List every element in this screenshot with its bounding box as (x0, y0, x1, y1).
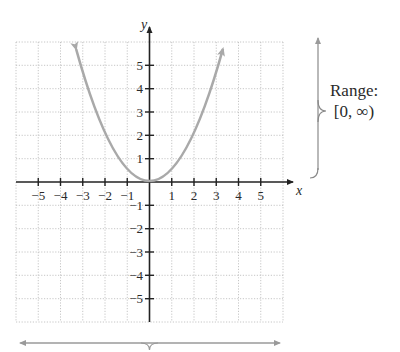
x-tick-label: −3 (76, 188, 90, 203)
y-tick-label: −1 (129, 198, 143, 213)
y-tick-label: 1 (137, 151, 144, 166)
x-tick-label: −4 (54, 188, 68, 203)
axes (16, 27, 293, 322)
x-tick-label: 3 (213, 188, 220, 203)
range-value: [0, ∞) (330, 101, 378, 122)
y-tick-label: −2 (129, 221, 143, 236)
x-tick-label: 5 (258, 188, 265, 203)
y-axis-label: y (139, 17, 148, 32)
range-annotation: Range: [0, ∞) (330, 80, 378, 122)
range-label: Range: (330, 80, 378, 101)
y-tick-label: −4 (129, 268, 143, 283)
x-tick-label: −5 (31, 188, 45, 203)
x-tick-label: 4 (235, 188, 242, 203)
x-tick-labels: −5 −4 −3 −2 −1 1 2 3 4 5 (31, 188, 264, 203)
y-tick-label: −5 (129, 291, 143, 306)
x-tick-label: 2 (191, 188, 198, 203)
x-tick-label: 1 (169, 188, 176, 203)
parabola-graph: −5 −4 −3 −2 −1 1 2 3 4 5 5 4 3 2 1 −1 −2… (0, 0, 400, 352)
y-tick-label: −3 (129, 245, 143, 260)
x-axis-label: x (295, 183, 303, 198)
y-tick-label: 4 (137, 81, 144, 96)
domain-indicator (20, 343, 280, 350)
y-tick-label: 5 (137, 58, 144, 73)
y-tick-label: 3 (137, 105, 144, 120)
y-tick-label: 2 (137, 128, 144, 143)
range-brace (310, 38, 326, 178)
x-tick-label: −2 (98, 188, 112, 203)
